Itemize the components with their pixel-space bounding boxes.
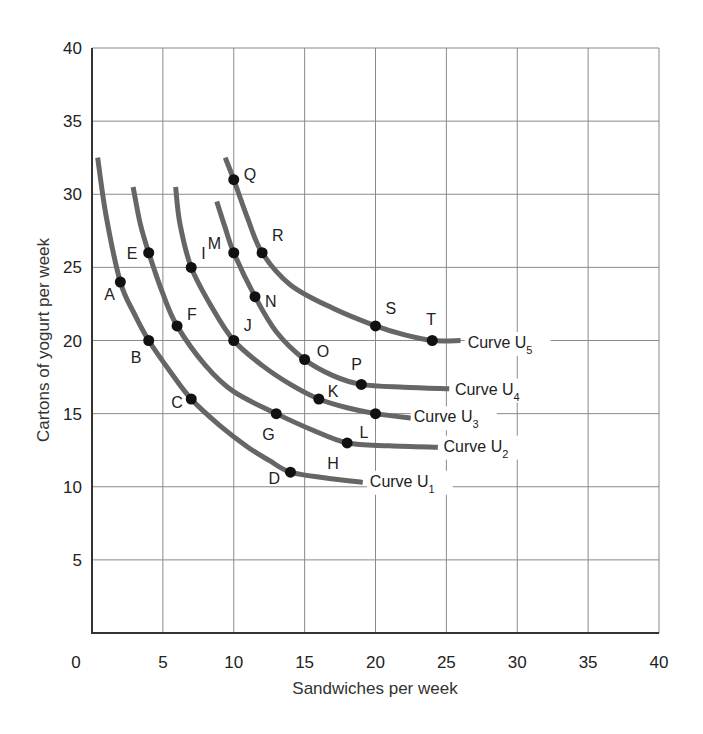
gridlines bbox=[92, 48, 659, 633]
y-tick-label: 15 bbox=[63, 405, 82, 424]
y-tick-label: 25 bbox=[63, 258, 82, 277]
point-r bbox=[257, 247, 268, 258]
point-label: I bbox=[201, 245, 205, 262]
x-axis-title: Sandwiches per week bbox=[292, 679, 458, 698]
point-label: A bbox=[104, 286, 115, 303]
point-a bbox=[115, 277, 126, 288]
point-m bbox=[228, 247, 239, 258]
x-tick-label: 10 bbox=[224, 653, 243, 672]
y-tick-label: 20 bbox=[63, 332, 82, 351]
y-tick-label: 5 bbox=[73, 551, 82, 570]
point-label: F bbox=[187, 306, 197, 323]
point-q bbox=[228, 174, 239, 185]
point-f bbox=[172, 320, 183, 331]
y-axis-title: Cartons of yogurt per week bbox=[34, 237, 53, 442]
point-label: Q bbox=[244, 166, 256, 183]
point-c bbox=[186, 394, 197, 405]
point-label: S bbox=[386, 300, 397, 317]
point-label: O bbox=[317, 343, 329, 360]
point-label: C bbox=[171, 394, 183, 411]
x-tick-label: 40 bbox=[650, 653, 669, 672]
point-label: B bbox=[131, 349, 142, 366]
y-tick-label: 40 bbox=[63, 39, 82, 58]
point-label: D bbox=[268, 470, 280, 487]
point-label: K bbox=[328, 383, 339, 400]
point-k bbox=[313, 394, 324, 405]
x-tick-label: 5 bbox=[158, 653, 167, 672]
point-i bbox=[186, 262, 197, 273]
x-tick-label: 25 bbox=[437, 653, 456, 672]
point-s bbox=[370, 320, 381, 331]
indifference-curve-chart: 0510152025303540510152025303540 Sandwich… bbox=[0, 0, 703, 734]
point-b bbox=[143, 335, 154, 346]
point-d bbox=[285, 467, 296, 478]
point-n bbox=[250, 291, 261, 302]
point-label: P bbox=[351, 356, 362, 373]
point-label: L bbox=[360, 424, 369, 441]
x-tick-label: 15 bbox=[295, 653, 314, 672]
point-l bbox=[370, 408, 381, 419]
y-tick-label: 35 bbox=[63, 112, 82, 131]
indifference-curves bbox=[98, 158, 461, 483]
point-label: H bbox=[327, 455, 339, 472]
point-o bbox=[299, 354, 310, 365]
y-tick-label: 10 bbox=[63, 478, 82, 497]
point-e bbox=[143, 247, 154, 258]
x-tick-label: 20 bbox=[366, 653, 385, 672]
point-j bbox=[228, 335, 239, 346]
x-tick-label: 0 bbox=[71, 653, 80, 672]
point-label: J bbox=[244, 317, 252, 334]
point-label: M bbox=[208, 235, 221, 252]
point-p bbox=[356, 379, 367, 390]
point-label: G bbox=[262, 426, 274, 443]
axis-ticks: 0510152025303540510152025303540 bbox=[63, 39, 668, 672]
point-label: T bbox=[426, 311, 436, 328]
point-t bbox=[427, 335, 438, 346]
point-h bbox=[342, 437, 353, 448]
y-tick-label: 30 bbox=[63, 185, 82, 204]
x-tick-label: 30 bbox=[508, 653, 527, 672]
point-g bbox=[271, 408, 282, 419]
point-label: R bbox=[272, 227, 284, 244]
point-label: E bbox=[127, 245, 138, 262]
point-label: N bbox=[265, 293, 277, 310]
x-tick-label: 35 bbox=[579, 653, 598, 672]
